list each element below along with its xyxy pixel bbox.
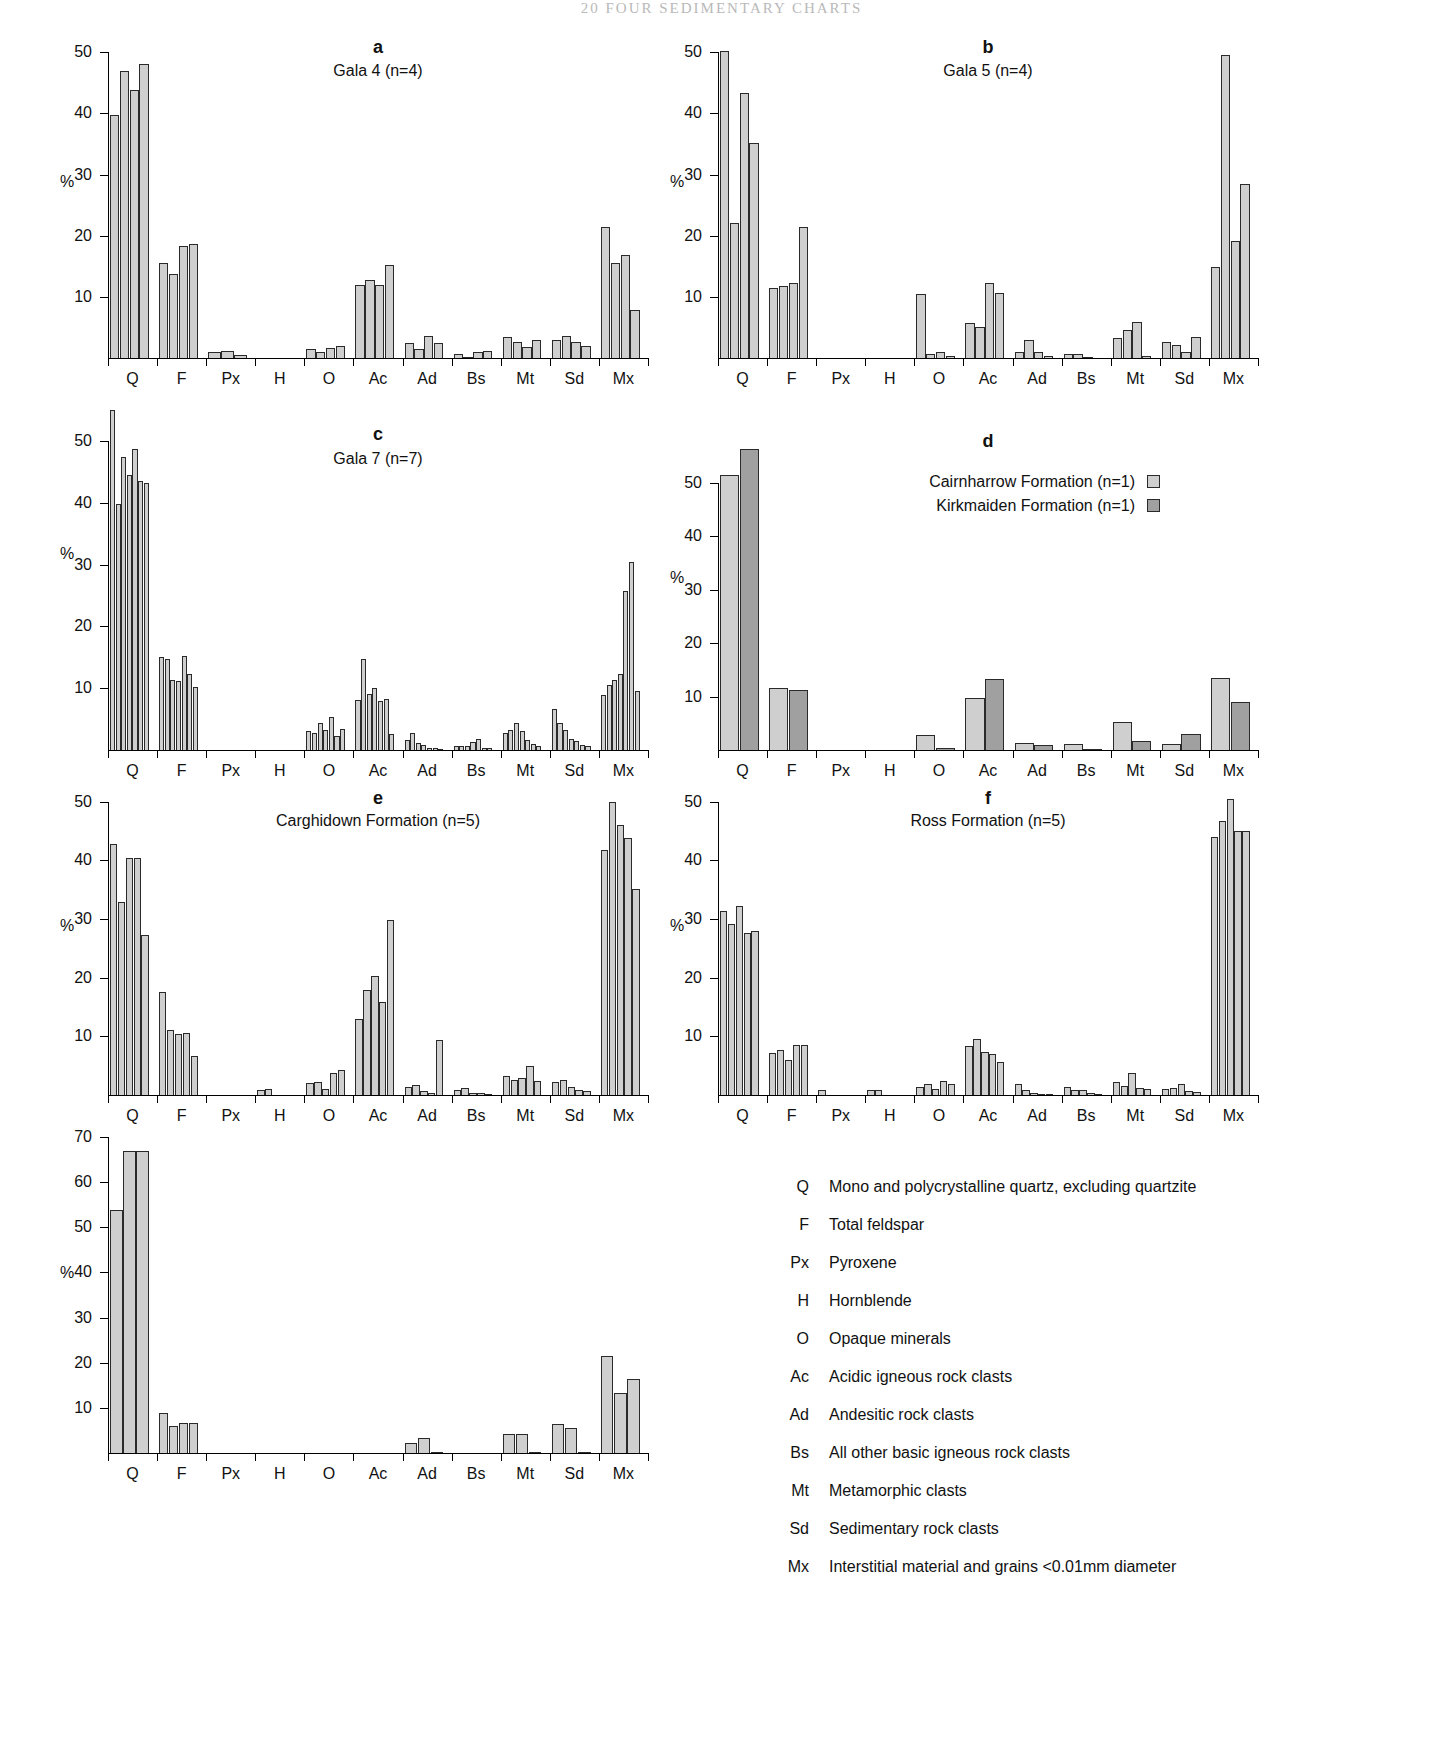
chart-panel-b: 1020304050%bGala 5 (n=4)QFPxHOAcAdBsMtSd… <box>0 0 1443 1741</box>
bar <box>1044 356 1053 358</box>
x-tick-mark-c-Q <box>108 750 109 758</box>
bar <box>340 729 345 750</box>
bar <box>193 687 198 750</box>
y-axis-line-e <box>108 802 109 1095</box>
bar <box>629 562 634 750</box>
bar <box>120 71 129 358</box>
bar <box>405 343 414 358</box>
bar <box>454 354 463 358</box>
x-tick-mark-e-O <box>304 1095 305 1103</box>
bar <box>405 1087 412 1095</box>
y-tick-label-g-70: 70 <box>58 1129 92 1145</box>
bar <box>1136 1088 1143 1095</box>
x-tick-mark-g-Q <box>108 1453 109 1461</box>
y-tick-label-f-30: 30 <box>668 911 702 927</box>
bar <box>1064 354 1073 358</box>
y-tick-mark-g-50 <box>100 1227 108 1228</box>
x-tick-label-g-Mt: Mt <box>501 1466 550 1482</box>
x-tick-label-b-H: H <box>865 371 914 387</box>
x-tick-label-e-F: F <box>157 1108 206 1124</box>
x-tick-mark-b-Ac <box>963 358 964 366</box>
bar <box>485 1094 492 1096</box>
bar <box>179 246 188 358</box>
bar <box>744 933 751 1095</box>
bar <box>1227 799 1234 1095</box>
x-tick-mark-b-Sd <box>1160 358 1161 366</box>
bar <box>175 1034 182 1095</box>
x-tick-mark-e-Q <box>108 1095 109 1103</box>
panel-title-a: Gala 4 (n=4) <box>108 62 648 80</box>
x-tick-label-f-Px: Px <box>816 1108 865 1124</box>
bar <box>557 723 562 750</box>
x-tick-label-g-F: F <box>157 1466 206 1482</box>
y-tick-label-e-20: 20 <box>58 970 92 986</box>
y-tick-label-d-10: 10 <box>668 689 702 705</box>
key-abbreviation: Px <box>785 1254 829 1272</box>
y-tick-label-a-30: 30 <box>58 167 92 183</box>
y-axis-line-b <box>718 52 719 358</box>
bar <box>389 734 394 750</box>
panel-title-c: Gala 7 (n=7) <box>108 450 648 468</box>
key-description: Hornblende <box>829 1292 912 1310</box>
x-tick-label-e-Ac: Ac <box>353 1108 402 1124</box>
x-tick-mark-a-O <box>304 358 305 366</box>
x-tick-mark-f-F <box>767 1095 768 1103</box>
x-tick-label-a-Px: Px <box>206 371 255 387</box>
x-tick-mark-d-Sd <box>1160 750 1161 758</box>
x-tick-label-c-O: O <box>304 763 353 779</box>
key-row-sd: SdSedimentary rock clasts <box>785 1520 1196 1558</box>
x-tick-mark-b-Q <box>718 358 719 366</box>
bar <box>1132 322 1141 358</box>
key-abbreviation: Mt <box>785 1482 829 1500</box>
bar <box>995 293 1004 358</box>
bar <box>355 1019 362 1095</box>
bar <box>609 802 616 1095</box>
bar <box>459 746 464 750</box>
x-tick-label-d-Ad: Ad <box>1013 763 1062 779</box>
x-tick-label-c-Mt: Mt <box>501 763 550 779</box>
panel-letter-f: f <box>718 789 1258 807</box>
bar <box>159 657 164 750</box>
bar <box>306 1083 313 1095</box>
y-tick-label-e-10: 10 <box>58 1028 92 1044</box>
bar <box>355 700 360 750</box>
bar <box>607 685 612 750</box>
bar <box>1221 55 1230 358</box>
bar <box>728 924 735 1095</box>
x-tick-label-b-Px: Px <box>816 371 865 387</box>
bar <box>387 920 394 1095</box>
key-description: Acidic igneous rock clasts <box>829 1368 1012 1386</box>
bar <box>552 340 561 358</box>
key-row-ad: AdAndesitic rock clasts <box>785 1406 1196 1444</box>
bar <box>465 746 470 750</box>
bar <box>116 504 121 750</box>
bar <box>1162 744 1181 750</box>
bar <box>1191 337 1200 358</box>
x-tick-mark-f-end <box>1258 1095 1259 1103</box>
x-tick-mark-b-Bs <box>1062 358 1063 366</box>
y-tick-label-a-40: 40 <box>58 105 92 121</box>
bar <box>191 1056 198 1095</box>
bar <box>531 744 536 750</box>
bar <box>749 143 758 358</box>
bar <box>1211 678 1230 750</box>
x-tick-label-e-O: O <box>304 1108 353 1124</box>
bar <box>503 733 508 750</box>
x-axis-line-f <box>718 1095 1258 1096</box>
x-tick-label-e-Ad: Ad <box>403 1108 452 1124</box>
y-tick-mark-g-40 <box>100 1272 108 1273</box>
x-tick-label-d-Mt: Mt <box>1111 763 1160 779</box>
x-tick-label-a-H: H <box>255 371 304 387</box>
x-tick-mark-g-H <box>255 1453 256 1461</box>
x-tick-mark-e-Mt <box>501 1095 502 1103</box>
bar <box>1178 1084 1185 1095</box>
x-tick-mark-a-Ac <box>353 358 354 366</box>
bar <box>428 1093 435 1095</box>
bar <box>617 825 624 1095</box>
bar <box>623 591 628 750</box>
x-tick-label-a-F: F <box>157 371 206 387</box>
bar <box>1015 352 1024 358</box>
bar <box>1185 1091 1192 1095</box>
key-description: Total feldspar <box>829 1216 924 1234</box>
x-tick-mark-d-Bs <box>1062 750 1063 758</box>
